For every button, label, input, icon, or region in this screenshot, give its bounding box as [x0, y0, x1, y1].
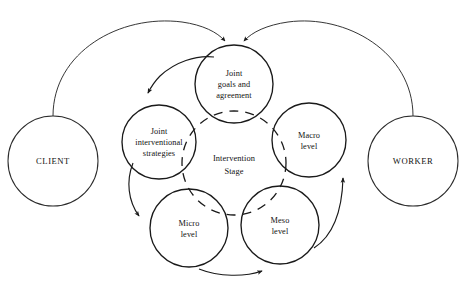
diagram-canvas: CLIENT WORKER Joint goals and agreement …	[0, 0, 465, 284]
intervention-stage-label: Intervention Stage	[213, 154, 256, 176]
arrow-micro-to-meso	[199, 269, 262, 275]
svg-text:level: level	[272, 227, 289, 236]
svg-text:Macro: Macro	[298, 131, 320, 140]
intervention-stage-diagram: CLIENT WORKER Joint goals and agreement …	[0, 0, 465, 284]
svg-text:Joint: Joint	[226, 69, 243, 78]
svg-text:level: level	[181, 230, 198, 239]
svg-text:level: level	[301, 142, 318, 151]
svg-text:Micro: Micro	[179, 219, 200, 228]
node-worker-label: WORKER	[393, 156, 434, 166]
svg-text:Stage: Stage	[224, 167, 243, 176]
svg-text:Joint: Joint	[151, 127, 168, 136]
svg-text:goals and: goals and	[218, 80, 251, 89]
svg-text:strategies: strategies	[143, 149, 175, 158]
node-client-label: CLIENT	[36, 156, 70, 166]
node-micro-circle	[150, 189, 228, 267]
svg-text:Intervention: Intervention	[213, 154, 256, 163]
svg-text:Meso: Meso	[271, 216, 290, 225]
node-macro-circle	[272, 103, 346, 177]
arrow-meso-to-macro	[314, 178, 343, 248]
node-meso-circle	[241, 186, 319, 264]
svg-text:interventional: interventional	[135, 138, 183, 147]
svg-text:agreement: agreement	[216, 91, 252, 100]
